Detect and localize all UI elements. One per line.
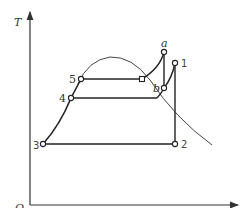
label-b: b xyxy=(153,82,160,95)
label-5: 5 xyxy=(69,73,76,86)
label-4: 4 xyxy=(59,92,66,105)
ts-diagram: T s O 1 2 3 4 5 a b xyxy=(0,0,252,208)
point-1 xyxy=(172,60,177,65)
point-3 xyxy=(40,141,45,146)
label-1: 1 xyxy=(181,58,187,69)
label-2: 2 xyxy=(181,139,187,150)
point-a xyxy=(161,49,166,54)
label-3: 3 xyxy=(33,140,39,151)
point-2 xyxy=(172,141,177,146)
point-5 xyxy=(78,76,83,81)
point-b xyxy=(161,85,166,90)
y-axis-label: T xyxy=(14,16,23,29)
process-3-4-5 xyxy=(43,79,81,144)
origin-label: O xyxy=(15,202,24,208)
point-4 xyxy=(68,95,73,100)
process-b-1 xyxy=(164,63,175,88)
saturation-dome xyxy=(78,57,212,145)
label-a: a xyxy=(161,37,168,50)
point-sat-vapor xyxy=(140,77,145,82)
